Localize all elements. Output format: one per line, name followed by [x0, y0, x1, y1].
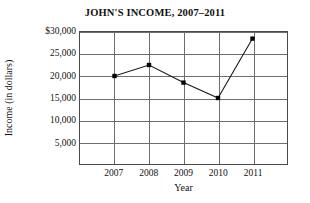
plot-area	[79, 31, 288, 165]
data-point-marker	[216, 96, 220, 100]
y-axis-tick-label: 15,000	[6, 93, 76, 103]
series-line	[115, 39, 253, 98]
chart-title: JOHN'S INCOME, 2007–2011	[0, 7, 310, 18]
data-series-income	[80, 32, 287, 164]
data-point-marker	[250, 36, 254, 40]
income-line-chart: JOHN'S INCOME, 2007–2011 Income (in doll…	[0, 0, 310, 203]
y-axis-tick-label: $30,000	[6, 26, 76, 36]
data-point-marker	[112, 74, 116, 78]
y-axis-tick-label: 20,000	[6, 71, 76, 81]
y-axis-tick-label: 25,000	[6, 48, 76, 58]
x-axis-tick-label: 2011	[231, 168, 275, 179]
data-point-marker	[181, 80, 185, 84]
data-point-marker	[147, 63, 151, 67]
y-axis-tick-label: 5,000	[6, 138, 76, 148]
x-axis-title: Year	[79, 182, 288, 193]
y-axis-tick-label: 10,000	[6, 115, 76, 125]
